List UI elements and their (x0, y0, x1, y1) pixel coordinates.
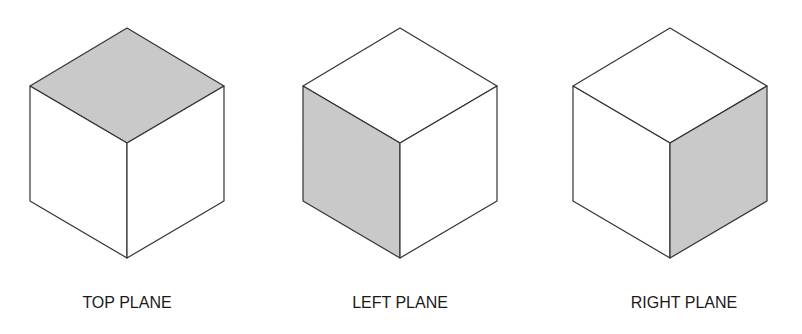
cube-top-plane (30, 28, 224, 258)
label-right-plane: RIGHT PLANE (631, 294, 737, 316)
label-top-plane: TOP PLANE (82, 294, 171, 316)
cube-left-plane (303, 28, 497, 258)
cube-right-plane (573, 28, 767, 258)
label-left-plane: LEFT PLANE (352, 294, 448, 316)
isometric-cubes-diagram (0, 0, 802, 334)
